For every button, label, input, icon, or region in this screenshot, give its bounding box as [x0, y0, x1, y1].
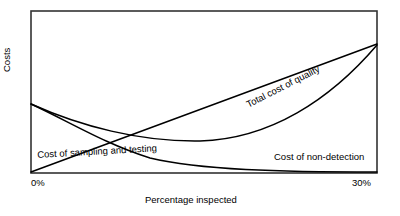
- y-axis-label: Costs: [2, 48, 12, 72]
- series-annotation-cost-of-non-detection: Cost of non-detection: [273, 152, 365, 162]
- chart-plot-area: [0, 0, 400, 216]
- x-axis-label: Percentage inspected: [145, 195, 237, 205]
- x-axis-tick-label-min: 0%: [31, 178, 45, 188]
- x-axis-tick-label-max: 30%: [352, 178, 371, 188]
- chart-figure: Costs Percentage inspected 0% 30% Total …: [0, 0, 400, 216]
